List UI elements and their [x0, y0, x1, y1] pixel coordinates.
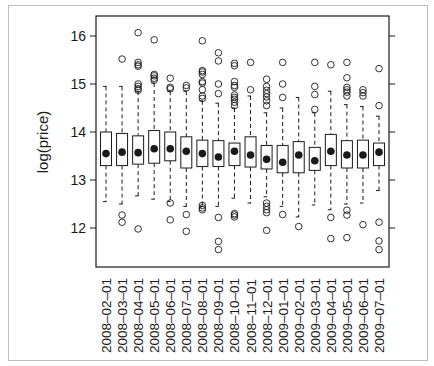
median-dot: [231, 147, 239, 155]
outlier-point: [311, 106, 318, 113]
outlier-point: [263, 76, 270, 83]
outlier-point: [183, 211, 190, 218]
median-dot: [247, 151, 255, 159]
x-tick-label: 2009–07–01: [372, 278, 387, 353]
y-tick-label: 12: [70, 220, 86, 236]
y-tick-label: 15: [70, 76, 86, 92]
outlier-point: [215, 246, 222, 253]
median-dot: [375, 148, 383, 156]
x-tick-label: 2009–03–01: [308, 278, 323, 353]
y-axis-label: log(price): [34, 111, 51, 174]
outlier-point: [199, 38, 206, 45]
median-dot: [215, 153, 223, 161]
x-tick-label: 2008–11–01: [244, 279, 259, 353]
outlier-point: [311, 91, 318, 98]
median-dot: [295, 151, 303, 159]
outlier-point: [376, 219, 383, 226]
outlier-point: [215, 81, 222, 88]
outlier-point: [247, 86, 254, 93]
outlier-point: [119, 56, 126, 63]
outlier-point: [199, 78, 206, 85]
outlier-point: [167, 217, 174, 224]
outlier-point: [279, 81, 286, 88]
outlier-point: [215, 214, 222, 221]
outlier-point: [263, 83, 270, 90]
y-tick-label: 13: [70, 172, 86, 188]
median-dot: [263, 156, 271, 164]
y-tick-label: 16: [70, 28, 86, 44]
median-dot: [118, 148, 126, 156]
outlier-point: [279, 59, 286, 66]
outlier-point: [344, 234, 351, 241]
outlier-point: [215, 50, 222, 57]
outlier-point: [344, 74, 351, 81]
outlier-point: [167, 200, 174, 207]
outlier-point: [376, 102, 383, 109]
x-tick-label: 2009–04–01: [324, 278, 339, 353]
outlier-point: [119, 212, 126, 219]
outlier-point: [119, 219, 126, 226]
outlier-point: [151, 37, 158, 44]
median-dot: [359, 151, 367, 159]
outlier-point: [376, 246, 383, 253]
outlier-point: [135, 63, 142, 70]
median-dot: [311, 157, 319, 165]
outlier-point: [344, 93, 351, 100]
x-tick-label: 2008–04–01: [131, 278, 146, 353]
outlier-point: [328, 214, 335, 221]
outlier-point: [311, 83, 318, 90]
outlier-point: [344, 212, 351, 219]
median-dot: [166, 145, 174, 153]
x-tick-label: 2008–07–01: [179, 278, 194, 353]
outlier-point: [360, 221, 367, 228]
x-tick-label: 2008–10–01: [227, 278, 242, 353]
outlier-point: [279, 211, 286, 218]
x-tick-label: 2008–09–01: [211, 278, 226, 353]
x-tick-label: 2008–03–01: [115, 278, 130, 353]
outlier-point: [135, 29, 142, 36]
outlier-point: [295, 223, 302, 230]
median-dot: [199, 150, 207, 158]
median-dot: [134, 149, 142, 157]
outlier-point: [135, 226, 142, 233]
outlier-point: [167, 84, 174, 91]
outlier-point: [328, 62, 335, 69]
outlier-point: [199, 67, 206, 74]
outlier-point: [183, 228, 190, 235]
x-tick-label: 2008–06–01: [163, 278, 178, 353]
outlier-point: [215, 58, 222, 65]
y-tick-label: 14: [70, 124, 86, 140]
x-tick-label: 2008–08–01: [195, 278, 210, 353]
outlier-point: [376, 238, 383, 245]
x-tick-label: 2009–06–01: [356, 278, 371, 353]
x-tick-label: 2008–02–01: [99, 278, 114, 353]
median-dot: [343, 151, 351, 159]
outlier-point: [199, 80, 206, 87]
outlier-point: [263, 102, 270, 109]
outlier-point: [263, 227, 270, 234]
x-tick-label: 2008–05–01: [147, 278, 162, 353]
boxplot-chart: 1213141516log(price)2008–02–012008–03–01…: [0, 0, 434, 366]
outlier-point: [279, 94, 286, 101]
outlier-point: [247, 59, 254, 66]
outlier-point: [167, 75, 174, 82]
outlier-point: [328, 235, 335, 242]
box-iqr: [101, 132, 112, 166]
x-tick-label: 2009–02–01: [292, 278, 307, 353]
x-tick-label: 2009–05–01: [340, 278, 355, 353]
outlier-point: [376, 65, 383, 72]
x-tick-label: 2008–12–01: [260, 278, 275, 353]
outlier-point: [344, 59, 351, 66]
median-dot: [327, 147, 335, 155]
x-tick-label: 2009–01–01: [276, 278, 291, 353]
outlier-point: [311, 59, 318, 66]
outlier-point: [215, 90, 222, 97]
median-dot: [150, 145, 158, 153]
outlier-point: [215, 238, 222, 245]
median-dot: [183, 147, 191, 155]
outlier-point: [199, 86, 206, 93]
median-dot: [279, 158, 287, 166]
median-dot: [102, 150, 110, 158]
